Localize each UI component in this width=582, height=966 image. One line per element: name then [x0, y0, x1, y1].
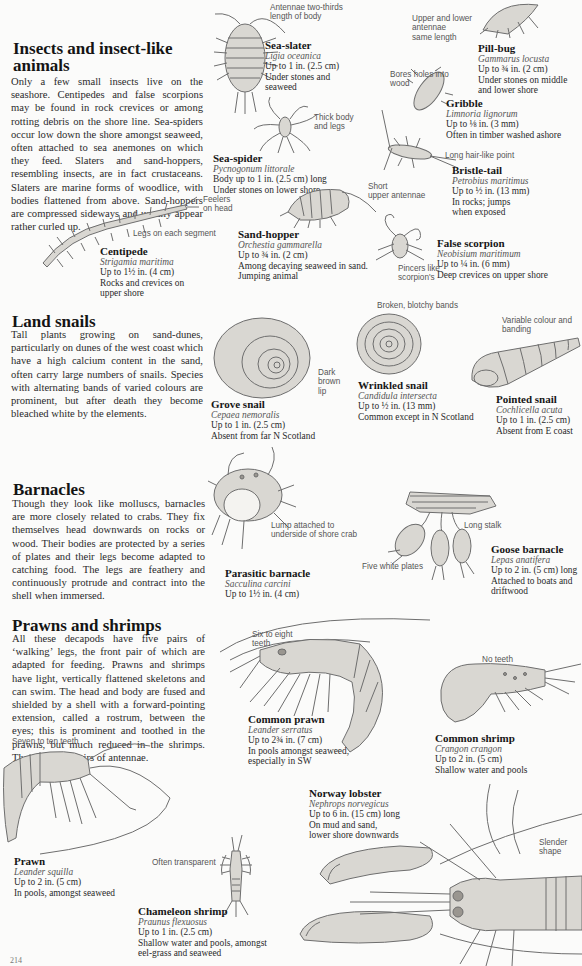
species-false-scorpion: False scorpion Neobisium maritimum Up to… [437, 237, 548, 280]
land-snails-body-text: Tall plants growing on sand-dunes, parti… [11, 328, 203, 420]
prawn-illustration [0, 738, 180, 853]
norway-lobster-illustration [300, 784, 582, 966]
species-sea-slater: Sea-slater Ligia oceanica Up to 1 in. (2… [265, 39, 339, 93]
species-grove-snail: Grove snail Cepaea nemoralis Up to 1 in.… [211, 398, 315, 441]
pill-bug-illustration [478, 0, 548, 38]
barnacles-body-text: Though they look like molluscs, barnacle… [12, 497, 205, 603]
callout-dark-brown-lip: Dark brown lip [318, 368, 340, 396]
grove-snail-illustration [212, 310, 312, 400]
bristle-tail-illustration [380, 110, 460, 170]
species-common-prawn: Common prawn Leander serratus Up to 2¾ i… [248, 713, 349, 767]
callout-antennae-two-thirds: Antennae two-thirds length of body [270, 3, 343, 22]
pointed-snail-illustration [468, 332, 582, 392]
page-number: 214 [10, 956, 22, 965]
callout-six-eight-teeth: Six to eight teeth [252, 630, 293, 649]
species-parasitic-barnacle: Parasitic barnacle Sacculina carcini Up … [225, 567, 310, 600]
callout-upper-lower-antennae: Upper and lower antennae same length [412, 14, 472, 42]
species-prawn: Prawn Leander squilla Up to 2 in. (5 cm)… [14, 855, 115, 898]
false-scorpion-illustration [370, 210, 430, 270]
species-chameleon-shrimp: Chameleon shrimp Praunus flexuosus Up to… [138, 905, 267, 959]
wrinkled-snail-illustration [356, 312, 422, 376]
callout-long-stalk: Long stalk [464, 521, 501, 530]
callout-no-teeth: No teeth [482, 655, 513, 664]
sand-hopper-illustration [280, 182, 380, 230]
callout-short-upper-antennae: Short upper antennae [368, 182, 425, 201]
species-centipede: Centipede Strigamia maritima Up to 1½ in… [100, 245, 184, 299]
heading-insects: Insects and insect-like animals [13, 40, 213, 74]
species-wrinkled-snail: Wrinkled snail Candidula intersecta Up t… [358, 379, 474, 422]
heading-insects-line2: animals [13, 57, 213, 74]
species-common-shrimp: Common shrimp Crangon crangon Up to 2 in… [435, 732, 527, 775]
callout-pincers-scorpion: Pincers like scorpion's [398, 264, 440, 283]
heading-barnacles: Barnacles [13, 481, 85, 498]
callout-legs-each-segment: Legs on each segment [133, 229, 216, 238]
species-goose-barnacle: Goose barnacle Lepas anatifera Up to 2 i… [491, 543, 577, 597]
callout-often-transparent: Often transparent [152, 858, 216, 867]
species-sand-hopper: Sand-hopper Orchestia gammarella Up to ¾… [238, 228, 368, 282]
species-pointed-snail: Pointed snail Cochlicella acuta Up to 1 … [496, 393, 573, 436]
species-bristle-tail: Bristle-tail Petrobius maritimus Up to ½… [452, 164, 529, 218]
callout-bores-holes: Bores holes into wood [390, 70, 449, 89]
callout-thick-body: Thick body and legs [314, 113, 354, 132]
common-shrimp-illustration [435, 660, 582, 730]
callout-five-white-plates: Five white plates [362, 562, 423, 571]
species-gribble: Gribble Limnoria lignorum Up to ⅛ in. (3… [446, 97, 561, 140]
heading-insects-line1: Insects and insect-like [13, 40, 213, 57]
callout-feelers-on-head: Feelers on head [203, 195, 233, 214]
callout-long-hair-point: Long hair-like point [445, 151, 514, 160]
callout-slender-shape: Slender shape [539, 838, 567, 857]
sea-spider-illustration [250, 95, 320, 155]
callout-lump-attached: Lump attached to underside of shore crab [271, 521, 357, 540]
species-pill-bug: Pill-bug Gammarus locusta Up to ¾ in. (2… [478, 42, 567, 96]
callout-broken-blotchy-bands: Broken, blotchy bands [377, 301, 458, 310]
